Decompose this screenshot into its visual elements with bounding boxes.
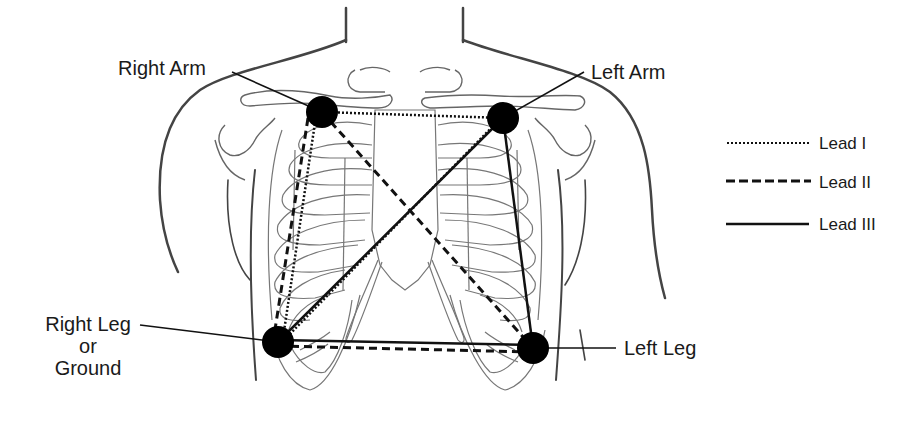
torso-outline bbox=[160, 8, 665, 380]
legend-label-lead-ii: Lead II bbox=[819, 174, 871, 191]
lead-ii-line-rl-ll bbox=[278, 346, 533, 352]
electrode-left-leg bbox=[517, 332, 549, 364]
label-right-leg-line1: Right Leg bbox=[28, 314, 148, 334]
label-left-leg: Left Leg bbox=[624, 338, 696, 358]
label-left-arm: Left Arm bbox=[591, 62, 665, 82]
clavicles bbox=[215, 67, 595, 180]
label-right-leg-line3: Ground bbox=[28, 358, 148, 378]
electrode-right-leg bbox=[262, 326, 294, 358]
label-right-leg: Right Leg or Ground bbox=[28, 314, 148, 378]
lead-ii-line bbox=[322, 112, 533, 348]
lead-iii-line-rl-ll bbox=[278, 340, 533, 345]
label-right-arm: Right Arm bbox=[118, 58, 206, 78]
legend-label-lead-i: Lead I bbox=[819, 135, 866, 152]
legend-label-lead-iii: Lead III bbox=[819, 216, 876, 233]
lead-iii-line bbox=[503, 118, 533, 348]
lead-i-line bbox=[322, 112, 503, 118]
label-right-leg-line2: or bbox=[28, 336, 148, 356]
lead-iii-line-la-rl bbox=[278, 118, 503, 342]
electrode-left-arm bbox=[487, 102, 519, 134]
lead-ii-line-ra-rl bbox=[274, 118, 308, 336]
legend-swatches bbox=[726, 143, 811, 224]
electrode-right-arm bbox=[306, 96, 338, 128]
